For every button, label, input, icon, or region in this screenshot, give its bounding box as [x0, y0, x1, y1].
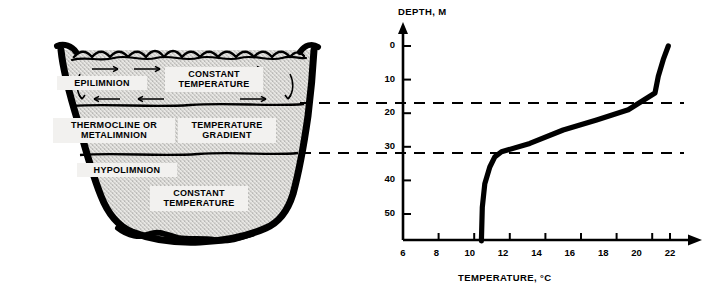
x-tick-label: 20: [627, 247, 647, 258]
y-tick-label: 20: [375, 106, 395, 117]
x-tick-label: 12: [493, 247, 513, 258]
y-tick-label: 10: [375, 73, 395, 84]
x-tick-label: 16: [560, 247, 580, 258]
y-tick-label: 0: [375, 39, 395, 50]
layer-divider-epilimnion: [72, 104, 304, 106]
y-tick-label: 30: [375, 140, 395, 151]
lake-label-thermocline: THERMOCLINE ORMETALIMNION: [53, 118, 175, 143]
x-tick-label: 18: [593, 247, 613, 258]
lake-label-constant-temperature-top: CONSTANTTEMPERATURE: [165, 67, 263, 92]
x-tick-label: 8: [426, 247, 446, 258]
y-axis-arrowhead: [398, 22, 408, 34]
figure-lake-stratification: EPILIMNION CONSTANTTEMPERATURE THERMOCLI…: [0, 0, 714, 295]
chart-x-axis-title: TEMPERATURE, °C: [458, 272, 552, 283]
x-tick-label: 14: [527, 247, 547, 258]
x-axis-arrowhead: [688, 235, 702, 246]
lake-label-epilimnion: EPILIMNION: [57, 76, 147, 90]
lake-label-hypolimnion: HYPOLIMNION: [77, 163, 177, 177]
lake-label-constant-temperature-bottom: CONSTANTTEMPERATURE: [150, 186, 248, 211]
temperature-profile-curve: [481, 46, 668, 241]
x-tick-label: 22: [660, 247, 680, 258]
x-tick-label: 10: [460, 247, 480, 258]
y-tick-label: 50: [375, 207, 395, 218]
y-tick-label: 40: [375, 173, 395, 184]
x-tick-label: 6: [393, 247, 413, 258]
chart-y-axis-title: DEPTH, M: [398, 6, 447, 17]
lake-label-temperature-gradient: TEMPERATUREGRADIENT: [178, 118, 276, 143]
temperature-depth-chart: [300, 22, 702, 246]
